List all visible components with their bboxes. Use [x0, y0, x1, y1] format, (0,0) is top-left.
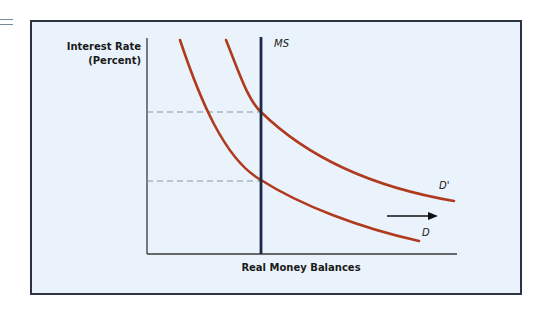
shift-arrow-head — [428, 212, 438, 220]
x-axis-label: Real Money Balances — [146, 262, 456, 273]
figure: Interest Rate (Percent) Real Money Balan… — [0, 0, 548, 313]
y-axis-label: Interest Rate (Percent) — [67, 40, 141, 68]
y-axis-label-line1: Interest Rate — [67, 40, 141, 54]
y-axis-label-line2: (Percent) — [67, 54, 141, 68]
d-label: D — [422, 227, 430, 238]
d-prime-label: D' — [439, 180, 449, 191]
ms-label: MS — [274, 38, 289, 49]
demand-curve-d — [180, 40, 419, 241]
